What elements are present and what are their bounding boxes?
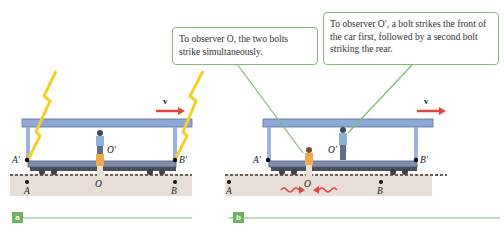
callout-observer-o: To observer O, the two bolts strike simu… [172, 27, 318, 65]
point-a-prime [25, 158, 29, 162]
observer-o-body [96, 154, 104, 166]
label-b-prime: B′ [420, 155, 428, 165]
observer-o-prime-body [96, 136, 104, 146]
point-b-prime [173, 158, 177, 162]
point-b [379, 180, 383, 184]
car-roof [22, 119, 192, 127]
lightning-bolt-icon [28, 71, 56, 160]
wheel [402, 169, 408, 175]
observer-o-prime-head [97, 130, 103, 136]
observer-o-prime-legs [340, 145, 346, 160]
car-post-right [414, 127, 418, 161]
point-b [173, 180, 177, 184]
callout-text: To observer O′, a bolt strikes the front… [330, 18, 486, 54]
car-floor [269, 161, 417, 167]
label-b-prime: B′ [179, 155, 187, 165]
label-velocity: v⃗ [424, 96, 436, 106]
observer-o-prime-body [339, 133, 347, 145]
label-a-prime: A′ [253, 155, 261, 165]
wheel [390, 169, 396, 175]
lightning-bolt-icon [175, 71, 203, 160]
label-a: A [226, 186, 232, 196]
wheel [39, 169, 45, 175]
panel-tag-a: a [12, 212, 23, 223]
arrow-head-icon [439, 107, 446, 115]
wheel [159, 169, 165, 175]
observer-o-legs [306, 165, 312, 180]
point-a [227, 180, 231, 184]
label-o-prime: O′ [107, 145, 116, 155]
label-a-prime: A′ [12, 155, 20, 165]
arrow-head-icon [178, 107, 185, 115]
observer-o-prime-head [340, 127, 346, 133]
car-post-left [267, 127, 271, 161]
point-b-prime [414, 158, 418, 162]
label-b: B [377, 186, 383, 196]
observer-o-head [306, 147, 312, 153]
label-o-prime: O′ [328, 145, 337, 155]
wheel [147, 169, 153, 175]
car-roof [263, 119, 433, 127]
wheel [279, 169, 285, 175]
point-a-prime [266, 158, 270, 162]
wheel [291, 169, 297, 175]
label-o: O [95, 179, 102, 189]
panel-b [225, 64, 500, 218]
label-o: O [304, 179, 311, 189]
label-velocity: v⃗ [163, 96, 175, 106]
observer-o-body [305, 153, 313, 165]
point-a [25, 180, 29, 184]
panel-tag-b: b [233, 212, 244, 223]
callout-text: To observer O, the two bolts strike simu… [179, 33, 288, 57]
label-b: B [171, 186, 177, 196]
observer-o-legs [97, 166, 103, 180]
label-a: A [24, 186, 30, 196]
callout-observer-o-prime: To observer O′, a bolt strikes the front… [323, 12, 499, 65]
wheel [51, 169, 57, 175]
